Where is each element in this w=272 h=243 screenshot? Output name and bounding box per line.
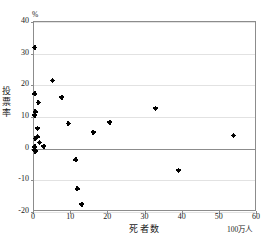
zero-reference-line <box>34 149 255 150</box>
data-point <box>75 186 80 191</box>
data-point <box>32 91 37 96</box>
gridline-y <box>34 22 255 23</box>
scatter-chart-figure: % 投票率 死者数 100万人 403020100-10-20010203040… <box>0 0 272 243</box>
data-point <box>176 168 181 173</box>
data-point <box>35 134 40 139</box>
y-axis-title-char: 票 <box>1 97 12 108</box>
y-tick-label: 30 <box>11 49 29 57</box>
data-point <box>153 106 158 111</box>
data-point <box>79 202 84 207</box>
gridline-y <box>34 117 255 118</box>
gridline-y <box>34 85 255 86</box>
x-tick-label: 20 <box>97 213 117 221</box>
x-tick-label: 40 <box>172 213 192 221</box>
data-point <box>59 95 64 100</box>
y-tick-mark <box>31 180 34 181</box>
x-tick-label: 0 <box>23 213 43 221</box>
y-tick-label: 0 <box>11 144 29 152</box>
data-point <box>91 130 96 135</box>
data-point <box>35 126 40 131</box>
data-point <box>66 121 71 126</box>
gridline-y <box>34 180 255 181</box>
x-tick-label: 10 <box>60 213 80 221</box>
data-point <box>231 133 236 138</box>
y-tick-label: -10 <box>11 175 29 183</box>
x-tick-label: 60 <box>246 213 266 221</box>
data-point <box>107 120 112 125</box>
x-tick-label: 30 <box>135 213 155 221</box>
y-tick-mark <box>31 85 34 86</box>
top-caption <box>5 0 125 7</box>
x-tick-label: 50 <box>209 213 229 221</box>
gridline-y <box>34 54 255 55</box>
y-tick-label: 20 <box>11 80 29 88</box>
y-axis-unit-label: % <box>32 11 38 19</box>
data-point <box>33 149 38 154</box>
plot-area <box>33 21 256 211</box>
y-tick-mark <box>31 54 34 55</box>
data-point <box>73 157 78 162</box>
data-point <box>36 100 41 105</box>
data-point <box>32 113 37 118</box>
x-axis-unit-label: 100万人 <box>227 225 271 234</box>
x-axis-title: 死者数 <box>113 224 177 234</box>
y-tick-label: 10 <box>11 112 29 120</box>
data-point <box>32 45 37 50</box>
data-point <box>50 78 55 83</box>
y-tick-mark <box>31 22 34 23</box>
data-point <box>41 144 46 149</box>
y-tick-label: 40 <box>11 17 29 25</box>
